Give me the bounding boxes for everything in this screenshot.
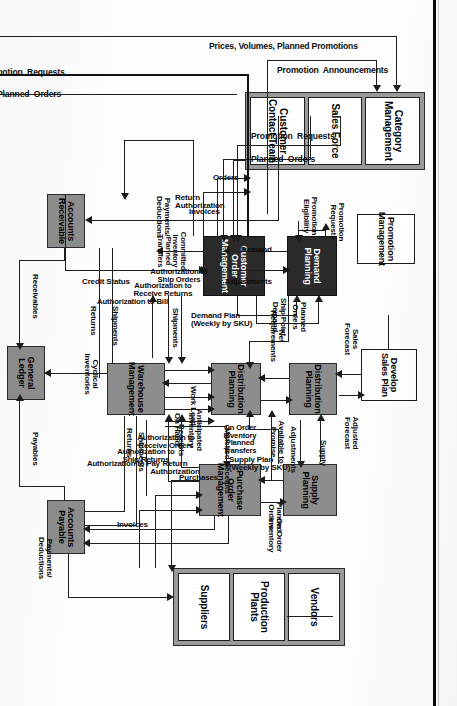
line-paydeduct-h bbox=[278, 116, 279, 221]
line-com-ar-h bbox=[124, 140, 125, 194]
node-develop-sales-plan-label: Develop Sales Plan bbox=[380, 350, 399, 400]
line-invoices-v bbox=[203, 192, 245, 193]
label-returns-ar: Returns bbox=[89, 306, 97, 335]
label-cyclical-inventories: Cyclical Inventories bbox=[83, 344, 99, 404]
label-planned-orders-top: Planned Orders bbox=[251, 155, 315, 164]
line-com-ar-h2 bbox=[193, 140, 194, 236]
page-binding-shadow bbox=[438, 0, 439, 706]
label-receivables: Receivables bbox=[31, 274, 39, 319]
label-demand: Demand bbox=[241, 246, 272, 254]
line-promoelig-h bbox=[298, 221, 299, 230]
label-promotion-requests-bottom: Promotion Requests bbox=[0, 68, 65, 77]
label-demand-plan: Demand Plan (Weekly by SKU) bbox=[191, 312, 252, 328]
label-returns-ap: Returns bbox=[125, 428, 133, 457]
node-develop-sales-plan[interactable]: Develop Sales Plan bbox=[361, 349, 417, 401]
node-distribution-planning-a-label: Distribution Planning bbox=[304, 363, 323, 414]
arrow-demand-plan bbox=[246, 362, 254, 369]
arrow-net-requirements bbox=[258, 374, 265, 382]
line-com-ar-v bbox=[124, 140, 194, 141]
arrow-supply-plan bbox=[246, 410, 254, 417]
arrow-auth-receive-returns bbox=[165, 357, 173, 364]
line-promoreq-top-v bbox=[237, 145, 341, 146]
cell-vendors[interactable]: Vendors bbox=[288, 573, 340, 641]
diagram-rotation-frame: Category Management Sales Force Customer… bbox=[0, 8, 437, 698]
label-payables: Payables bbox=[31, 432, 39, 466]
cell-production-plants[interactable]: Production Plants bbox=[233, 573, 285, 641]
label-matched-receipts: Matched Receipts bbox=[223, 428, 231, 494]
arrow-planned-orders-top bbox=[220, 235, 228, 242]
arrow-promo-announcements bbox=[373, 85, 381, 92]
arrow-work-load bbox=[162, 379, 169, 387]
arrow-com-to-ar bbox=[121, 193, 129, 200]
label-supply: Supply bbox=[319, 440, 327, 466]
label-shipments-ar: Shipments bbox=[111, 306, 119, 346]
line-authship-h bbox=[181, 296, 182, 358]
arrow-receivables bbox=[16, 343, 24, 350]
label-planned-orders-bottom: Planned Orders bbox=[0, 90, 61, 99]
label-prices-volumes: Prices, Volumes, Planned Promotions bbox=[209, 42, 358, 51]
line-shipments-wh-v bbox=[165, 370, 211, 371]
line-atp-v bbox=[261, 400, 289, 401]
line-retauth-v2 bbox=[155, 495, 199, 496]
label-net-requirements: Net Requirements bbox=[269, 300, 285, 372]
line-returns-ar-h bbox=[99, 248, 100, 378]
line-workload-v bbox=[165, 383, 211, 384]
node-general-ledger-label: General Ledger bbox=[17, 347, 36, 399]
arrow-on-hand bbox=[208, 405, 215, 413]
node-distribution-planning-b-label: Distribution Planning bbox=[227, 363, 246, 414]
arrow-receipts bbox=[208, 417, 215, 425]
line-plannedorders-dp-h2 bbox=[256, 296, 257, 324]
line-vendors-rail-v bbox=[287, 616, 333, 617]
arrow-invoices-v bbox=[196, 506, 203, 514]
arrow-orders bbox=[230, 235, 238, 242]
line-promoreq-bottom-h bbox=[247, 74, 249, 236]
node-accounts-receivable-label: Accounts Receivable bbox=[57, 195, 76, 247]
node-accounts-payable-label: Accounts Payable bbox=[57, 501, 76, 553]
line-pom-ap-v2 bbox=[85, 529, 215, 530]
label-on-order-inv-planned: On Order Inventory Planned Transfers bbox=[205, 424, 275, 455]
node-general-ledger[interactable]: General Ledger bbox=[7, 346, 45, 400]
process-flow-diagram: Category Management Sales Force Customer… bbox=[0, 8, 437, 698]
arrow-prices-volumes bbox=[393, 85, 401, 92]
node-supply-planning-label: Supply Planning bbox=[301, 465, 320, 515]
line-payables-h2 bbox=[19, 400, 20, 486]
line-purchases-h bbox=[171, 480, 172, 568]
line-onhand-v bbox=[165, 409, 211, 410]
line-receivables-v bbox=[19, 260, 65, 261]
line-demandplan-h bbox=[288, 296, 289, 342]
cell-suppliers[interactable]: Suppliers bbox=[178, 573, 230, 641]
arrow-anticipated-inventory bbox=[208, 393, 215, 401]
node-warehouse-management[interactable]: Warehouse Management bbox=[107, 363, 165, 415]
line-receivables-h bbox=[64, 248, 65, 261]
node-distribution-planning-b[interactable]: Distribution Planning bbox=[211, 363, 261, 415]
line-orders-h bbox=[233, 160, 234, 236]
arrow-auth-ship-orders bbox=[178, 357, 186, 364]
line-demandplan-h2 bbox=[249, 341, 250, 363]
arrow-auth-receive-orders bbox=[178, 414, 186, 421]
cell-category-management[interactable]: Category Management bbox=[365, 97, 420, 165]
arrow-sales-forecast bbox=[335, 370, 342, 378]
label-promotion-eligibility: Promotion Eligibility bbox=[302, 180, 318, 252]
line-adjustments-dp-v bbox=[227, 270, 285, 271]
line-shipments-ap-v bbox=[85, 525, 137, 526]
node-warehouse-management-label: Warehouse Management bbox=[127, 361, 146, 417]
arrow-demand bbox=[223, 247, 230, 255]
node-vendor-group[interactable]: Vendors Production Plants Suppliers bbox=[173, 568, 345, 646]
line-invoices-h2 bbox=[139, 510, 140, 568]
line-netreq-v bbox=[261, 378, 289, 379]
node-accounts-receivable[interactable]: Accounts Receivable bbox=[47, 194, 85, 248]
line-promoreq-top-h bbox=[340, 116, 341, 146]
line-dsp-rail-h bbox=[388, 315, 389, 349]
arrow-available-to-promise bbox=[286, 396, 293, 404]
arrow-planned-orders-sp bbox=[258, 476, 265, 484]
label-promotion-announcements: Promotion Announcements bbox=[277, 66, 388, 75]
label-auth-to-bill: Authorization to Bill bbox=[97, 298, 168, 306]
node-distribution-planning-a[interactable]: Distribution Planning bbox=[289, 363, 337, 415]
arrow-purchases bbox=[168, 565, 176, 572]
line-orders-v1 bbox=[233, 160, 245, 161]
label-supply-plan: Supply Plan (Weekly by SKU) bbox=[229, 456, 290, 472]
node-promotion-management[interactable]: Promotion Management bbox=[357, 214, 415, 264]
arrow-on-order-inventory bbox=[280, 498, 287, 506]
line-prices-volumes-v bbox=[0, 36, 397, 37]
arrow-adjustments-dp bbox=[283, 266, 290, 274]
